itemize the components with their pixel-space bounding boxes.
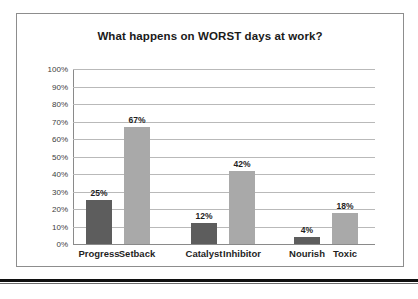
bar-value-label: 4% (301, 225, 313, 235)
x-axis-category-label: Progress (78, 248, 119, 259)
bar-nourish[interactable]: 4%Nourish (294, 237, 320, 244)
y-axis-tick-label: 20% (52, 205, 68, 214)
y-axis-tick-label: 40% (52, 170, 68, 179)
bar-progress[interactable]: 25%Progress (86, 200, 112, 244)
gridline-100 (73, 69, 375, 70)
y-axis-tick-label: 80% (52, 100, 68, 109)
x-axis-category-label: Toxic (333, 248, 357, 259)
gridline-60 (73, 139, 375, 140)
bar-value-label: 25% (90, 188, 107, 198)
y-axis-tick-label: 90% (52, 82, 68, 91)
x-axis-category-label: Catalyst (186, 248, 223, 259)
y-axis-tick-label: 30% (52, 187, 68, 196)
y-axis-tick-label: 10% (52, 222, 68, 231)
y-axis-tick-label: 70% (52, 117, 68, 126)
y-axis-tick-label: 50% (52, 152, 68, 161)
gridline-70 (73, 122, 375, 123)
gridline-40 (73, 174, 375, 175)
bottom-divider-rule (0, 279, 418, 282)
bar-value-label: 12% (195, 211, 212, 221)
x-axis-category-label: Setback (119, 248, 155, 259)
x-axis-category-label: Inhibitor (223, 248, 261, 259)
bar-value-label: 42% (233, 159, 250, 169)
gridline-0 (73, 244, 375, 245)
chart-title: What happens on WORST days at work? (17, 30, 403, 42)
gridline-90 (73, 87, 375, 88)
bar-value-label: 67% (128, 115, 145, 125)
bar-toxic[interactable]: 18%Toxic (332, 213, 358, 245)
x-axis-category-label: Nourish (289, 248, 325, 259)
chart-figure-frame: What happens on WORST days at work? 100%… (16, 13, 404, 267)
y-axis-tick-label: 60% (52, 135, 68, 144)
bottom-divider-rule-thin (0, 283, 418, 284)
gridline-20 (73, 209, 375, 210)
bar-inhibitor[interactable]: 42%Inhibitor (229, 171, 255, 245)
plot-area: 100%90%80%70%60%50%40%30%20%10%0%25%Prog… (73, 69, 375, 244)
bar-value-label: 18% (336, 201, 353, 211)
gridline-30 (73, 192, 375, 193)
y-axis-tick-label: 0% (56, 240, 68, 249)
bar-setback[interactable]: 67%Setback (124, 127, 150, 244)
y-axis-tick-label: 100% (48, 65, 68, 74)
gridline-80 (73, 104, 375, 105)
gridline-10 (73, 227, 375, 228)
gridline-50 (73, 157, 375, 158)
bar-catalyst[interactable]: 12%Catalyst (191, 223, 217, 244)
